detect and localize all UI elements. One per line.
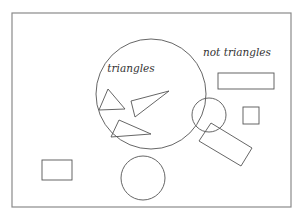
small-circle-shape	[192, 98, 226, 132]
not-triangles-label: not triangles	[203, 46, 272, 58]
rotated-rectangle-shape	[199, 123, 252, 166]
universe-frame	[12, 13, 291, 207]
diagram-svg: triangles not triangles	[0, 0, 302, 220]
wide-rectangle-shape	[218, 73, 274, 89]
diagram-canvas: triangles not triangles	[0, 0, 302, 220]
bottom-left-rectangle-shape	[42, 160, 72, 180]
triangles-label: triangles	[107, 62, 155, 74]
bottom-circle-shape	[121, 156, 165, 200]
small-square-shape	[243, 107, 259, 124]
triangle-shape	[111, 120, 151, 137]
triangle-shape	[99, 89, 125, 110]
triangle-shape	[131, 91, 169, 117]
